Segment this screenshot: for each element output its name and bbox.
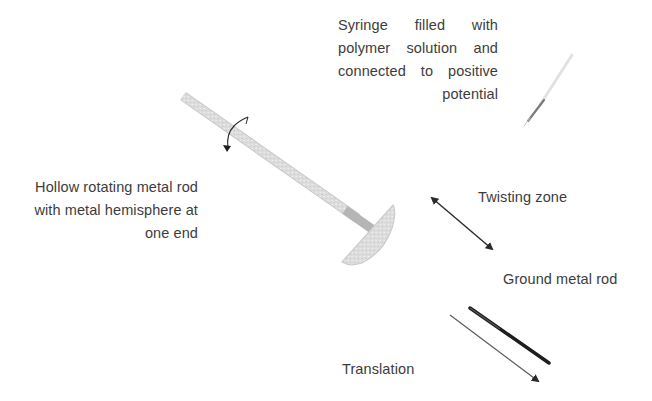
ground-rod-label: Ground metal rod (503, 268, 617, 291)
syringe-label-line-3: connected to positive (338, 60, 498, 83)
rotating-rod-label-line-3: one end (29, 222, 198, 245)
twisting-zone-label: Twisting zone (478, 186, 567, 209)
hollow-rotating-rod (183, 96, 372, 229)
syringe-label: Syringe filled with polymer solution and… (338, 14, 498, 106)
syringe-icon (524, 55, 572, 126)
ground-metal-rod (470, 308, 549, 363)
syringe-label-line-1: Syringe filled with (338, 14, 498, 37)
rotating-rod-label: Hollow rotating metal rod with metal hem… (29, 176, 198, 245)
syringe-label-line-2: polymer solution and (338, 37, 498, 60)
translation-label: Translation (342, 358, 414, 381)
syringe-label-line-4: potential (338, 83, 498, 106)
rotating-rod-label-line-2: with metal hemisphere at (29, 199, 198, 222)
rotating-rod-label-line-1: Hollow rotating metal rod (29, 176, 198, 199)
